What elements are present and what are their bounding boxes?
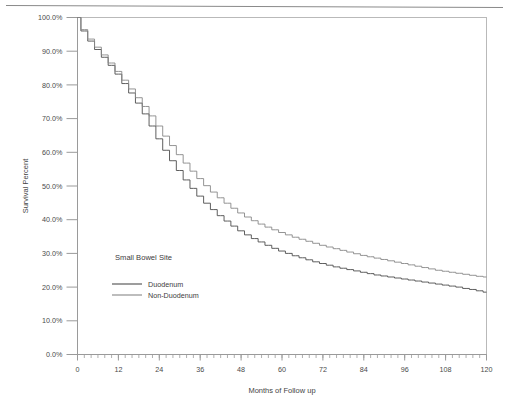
legend-label-non-duodenum: Non-Duodenum bbox=[148, 291, 199, 300]
y-tick-label: 50.0% bbox=[42, 182, 63, 191]
series-line-non-duodenum bbox=[78, 18, 487, 277]
x-axis-title: Months of Follow up bbox=[248, 386, 315, 395]
y-tick-label: 70.0% bbox=[42, 114, 63, 123]
y-axis-tick-labels: 0.0%10.0%20.0%30.0%40.0%50.0%60.0%70.0%8… bbox=[38, 13, 63, 359]
y-tick-label: 30.0% bbox=[42, 249, 63, 258]
x-tick-label: 12 bbox=[114, 365, 122, 374]
x-tick-label: 96 bbox=[401, 365, 409, 374]
x-tick-label: 36 bbox=[196, 365, 204, 374]
y-axis-ticks bbox=[67, 18, 78, 355]
survival-curve-chart: 0.0%10.0%20.0%30.0%40.0%50.0%60.0%70.0%8… bbox=[0, 0, 507, 414]
x-tick-label: 60 bbox=[278, 365, 286, 374]
legend-label-duodenum: Duodenum bbox=[148, 280, 183, 289]
y-tick-label: 100.0% bbox=[38, 13, 63, 22]
x-tick-label: 84 bbox=[360, 365, 368, 374]
y-tick-label: 90.0% bbox=[42, 47, 63, 56]
y-tick-label: 60.0% bbox=[42, 148, 63, 157]
legend-title: Small Bowel Site bbox=[115, 253, 172, 262]
x-tick-label: 48 bbox=[237, 365, 245, 374]
y-tick-label: 0.0% bbox=[46, 350, 63, 359]
series-line-duodenum bbox=[78, 18, 487, 293]
y-tick-label: 10.0% bbox=[42, 316, 63, 325]
x-axis-tick-labels: 01224364860728496108120 bbox=[76, 365, 493, 374]
x-tick-label: 72 bbox=[319, 365, 327, 374]
x-tick-label: 0 bbox=[76, 365, 80, 374]
series-lines-group bbox=[78, 18, 487, 293]
legend-items: DuodenumNon-Duodenum bbox=[112, 280, 199, 300]
plot-frame bbox=[78, 18, 487, 355]
y-tick-label: 80.0% bbox=[42, 81, 63, 90]
y-axis-title: Survival Percent bbox=[21, 158, 30, 214]
x-tick-label: 24 bbox=[155, 365, 163, 374]
chart-legend: Small Bowel Site DuodenumNon-Duodenum bbox=[112, 253, 199, 300]
y-tick-label: 20.0% bbox=[42, 283, 63, 292]
x-tick-label: 120 bbox=[481, 365, 493, 374]
x-tick-label: 108 bbox=[440, 365, 452, 374]
figure-container: 0.0%10.0%20.0%30.0%40.0%50.0%60.0%70.0%8… bbox=[0, 0, 507, 414]
y-tick-label: 40.0% bbox=[42, 215, 63, 224]
